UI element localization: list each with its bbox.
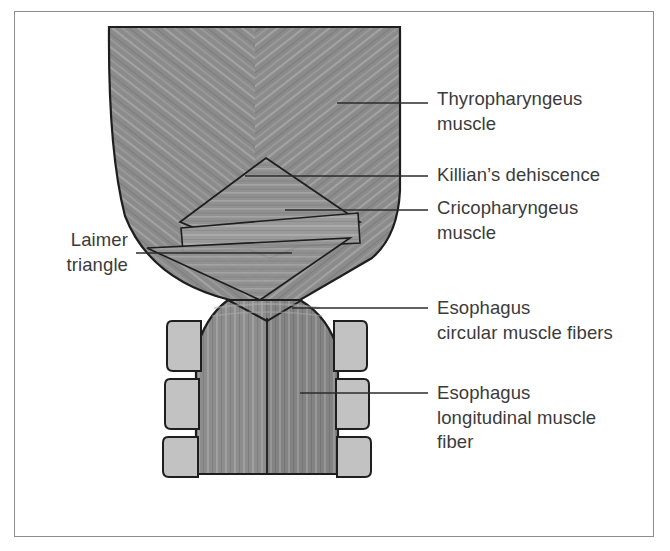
anatomical-figure: Thyropharyngeus muscle Killian’s dehisce… [0,0,670,551]
label-thyropharyngeus-muscle: Thyropharyngeus muscle [437,87,647,136]
label-laimer-triangle: Laimer triangle [36,228,128,277]
cartilage-block-left-2 [165,379,199,429]
label-esophagus-circular-muscle-fibers: Esophagus circular muscle fibers [437,296,652,345]
cartilage-block-left-3 [163,437,198,477]
cartilage-block-right-2 [336,379,369,429]
label-cricopharyngeus-muscle: Cricopharyngeus muscle [437,196,647,245]
label-killians-dehiscence: Killian’s dehiscence [437,163,652,188]
cartilage-block-right-1 [334,321,367,371]
esophagus-body [190,296,344,481]
cartilage-block-right-3 [337,437,371,477]
cartilage-block-left-1 [167,321,201,371]
label-esophagus-longitudinal-muscle-fiber: Esophagus longitudinal muscle fiber [437,381,649,455]
